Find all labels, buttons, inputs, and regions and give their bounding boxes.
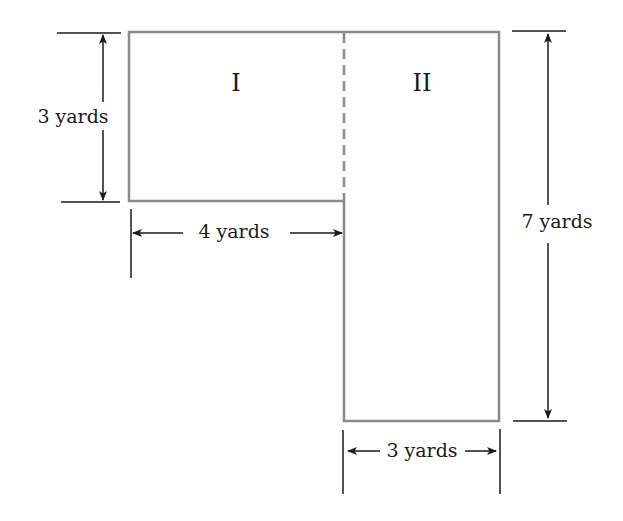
region-i-label: I (231, 69, 240, 97)
left-height-label: 3 yards (37, 105, 108, 127)
l-shape-diagram: I II 3 yards 4 yards 7 yards 3 yards (0, 0, 623, 521)
region-ii-label: II (413, 69, 432, 97)
right-height-label: 7 yards (521, 210, 592, 232)
region-i-width-label: 4 yards (198, 220, 269, 242)
region-ii-width-label: 3 yards (386, 439, 457, 461)
l-shape-border (129, 32, 499, 421)
shape-outline (129, 32, 499, 421)
